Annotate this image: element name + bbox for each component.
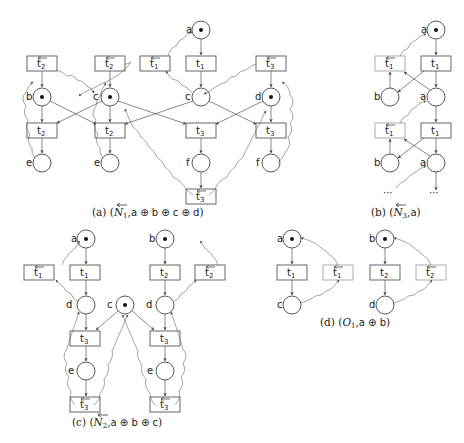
- petri-net-figure: a t2 t2 t1 t1 t3 b: [0, 0, 464, 443]
- transition-t2: t2: [150, 265, 180, 280]
- transition-t1: t1: [277, 265, 307, 280]
- place-a: a: [277, 230, 301, 248]
- subfigure-d: a b t1 t1 t2 t2 c d: [277, 230, 446, 330]
- svg-text:d: d: [255, 91, 261, 102]
- svg-text:b: b: [26, 91, 32, 102]
- place-d-left: d: [66, 296, 95, 314]
- subfigure-a: a t2 t2 t1 t1 t3 b: [23, 21, 293, 220]
- place-a-1: a: [420, 88, 445, 106]
- place-b-2: b: [374, 154, 399, 172]
- transition-t3-left: t3: [70, 331, 100, 346]
- place-f-right: f: [256, 154, 280, 172]
- place-b: b: [149, 230, 174, 248]
- place-d-right: d: [146, 296, 174, 314]
- caption-c: (c) (N2,a ⊕ b ⊕ c): [72, 416, 162, 430]
- place-a-2: a: [420, 154, 445, 172]
- svg-text:e: e: [68, 365, 74, 376]
- svg-text:c: c: [107, 299, 113, 310]
- transition-t3-right: t3: [256, 123, 286, 138]
- svg-text:a: a: [420, 91, 426, 102]
- transition-t1-rev: t1: [323, 265, 353, 280]
- caption-b: (b) (N3,a): [371, 206, 421, 220]
- svg-text:f: f: [186, 157, 190, 168]
- place-d: d: [369, 296, 394, 314]
- transition-t2-rev: t2: [195, 265, 225, 280]
- svg-text:d: d: [146, 299, 152, 310]
- place-e-right: e: [147, 362, 174, 380]
- place-f-mid: f: [186, 154, 210, 172]
- ellipsis-right: ···: [429, 187, 439, 198]
- transition-t2-mid: t2: [95, 123, 125, 138]
- place-b: b: [369, 230, 394, 248]
- svg-text:a: a: [71, 233, 77, 244]
- transition-t2: t2: [370, 265, 400, 280]
- svg-text:b: b: [149, 233, 155, 244]
- caption-d: (d) (O1,a ⊕ b): [320, 316, 390, 330]
- transition-t3-mid: t3: [186, 123, 216, 138]
- transition-t3-rev-bottom: t3: [186, 189, 216, 204]
- svg-text:b: b: [374, 91, 380, 102]
- svg-text:e: e: [147, 365, 153, 376]
- place-e-mid: e: [94, 154, 119, 172]
- place-c: c: [107, 296, 134, 314]
- caption-a: (a) (N1,a ⊕ b ⊕ c ⊕ d): [92, 206, 204, 220]
- subfigure-c: a b t1 t1 t2 t2 d c: [24, 230, 225, 430]
- transition-t1-2: t1: [421, 123, 451, 138]
- transition-t3-right: t3: [150, 331, 180, 346]
- transition-t1: t1: [70, 265, 100, 280]
- transition-t2-rev: t2: [416, 265, 446, 280]
- transition-t1-rev-2: t1: [375, 123, 405, 138]
- svg-text:c: c: [185, 91, 191, 102]
- svg-text:a: a: [421, 24, 427, 35]
- transition-t1-rev: t1: [24, 265, 54, 280]
- svg-text:d: d: [66, 299, 72, 310]
- svg-text:e: e: [26, 157, 32, 168]
- transition-t1-rev: t1: [140, 56, 170, 71]
- svg-text:c: c: [277, 299, 283, 310]
- svg-text:e: e: [94, 157, 100, 168]
- wavy-arcs-d: [301, 238, 432, 303]
- transition-t2-left: t2: [27, 123, 57, 138]
- subfigure-b: a t1 t1 b a t1 t1 b: [371, 21, 451, 220]
- place-a: a: [71, 230, 95, 248]
- svg-text:b: b: [374, 157, 380, 168]
- place-c-empty: c: [185, 88, 210, 106]
- place-e-left: e: [26, 154, 51, 172]
- place-e-left: e: [68, 362, 95, 380]
- transition-t1-rev-1: t1: [375, 56, 405, 71]
- transition-t1: t1: [186, 56, 216, 71]
- svg-text:d: d: [369, 299, 375, 310]
- place-a: a: [186, 21, 210, 39]
- ellipsis-left: ···: [383, 187, 393, 198]
- transition-t3-rev-right: t3: [256, 56, 286, 71]
- transition-t2-rev-left: t2: [27, 56, 57, 71]
- place-c: c: [277, 296, 301, 314]
- svg-text:b: b: [369, 233, 375, 244]
- svg-text:f: f: [256, 157, 260, 168]
- place-a-top: a: [421, 21, 445, 39]
- svg-text:a: a: [277, 233, 283, 244]
- transition-t2-rev-mid: t2: [95, 56, 125, 71]
- place-b-1: b: [374, 88, 399, 106]
- transition-t1-1: t1: [421, 56, 451, 71]
- place-b: b: [26, 88, 51, 106]
